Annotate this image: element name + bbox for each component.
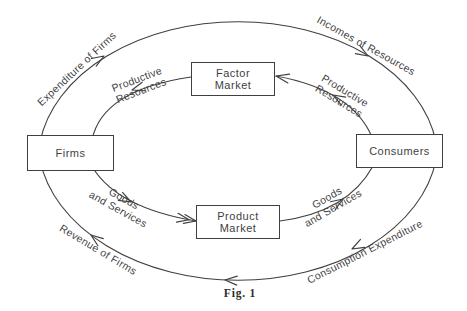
firms-label: Firms: [56, 147, 86, 159]
product-market-label-line2: Market: [220, 222, 257, 234]
firms-box: Firms: [27, 135, 114, 171]
factor-market-box: Factor Market: [191, 62, 275, 96]
product-market-box: Product Market: [196, 205, 280, 239]
factor-market-label-line1: Factor: [216, 67, 250, 79]
factor-market-label-line2: Market: [215, 79, 252, 91]
consumers-label: Consumers: [369, 145, 430, 157]
circular-flow-diagram: Firms Factor Market Product Market Consu…: [0, 0, 467, 311]
product-market-label-line1: Product: [217, 210, 258, 222]
figure-caption: Fig. 1: [224, 287, 256, 299]
consumers-box: Consumers: [356, 134, 443, 168]
